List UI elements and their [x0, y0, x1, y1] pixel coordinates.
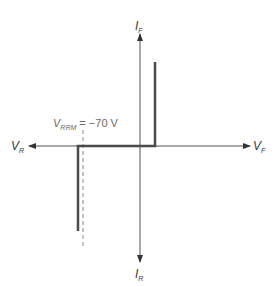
label-ir: IR	[135, 267, 143, 282]
label-vf: VF	[253, 139, 266, 154]
label-vr: VR	[11, 139, 24, 154]
iv-curve	[78, 62, 155, 231]
label-if: IF	[135, 19, 143, 34]
diode-iv-diagram: IF IR VR VF VRRM = −70 V	[0, 0, 278, 287]
label-vrrm: VRRM = −70 V	[53, 117, 119, 131]
